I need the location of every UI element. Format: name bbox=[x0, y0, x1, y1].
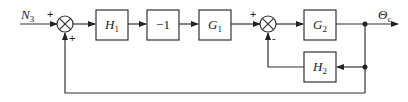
input-label: N3 bbox=[20, 7, 35, 24]
block-g2-label: G2 bbox=[313, 17, 327, 34]
block-diagram: N3 + + + - H1 −1 G1 G2 H2 Θc bbox=[0, 0, 408, 102]
block-h2-label: H2 bbox=[312, 59, 327, 76]
sum-junction-1 bbox=[57, 16, 73, 32]
branch-point-output bbox=[363, 22, 368, 27]
sum2-left-sign: + bbox=[250, 8, 256, 20]
sum1-bottom-sign: + bbox=[69, 32, 75, 44]
block-g1-label: G1 bbox=[208, 17, 222, 34]
sum-junction-2 bbox=[260, 16, 276, 32]
output-label: Θc bbox=[378, 7, 391, 24]
sum1-left-sign: + bbox=[47, 8, 53, 20]
block-h1-label: H1 bbox=[104, 17, 119, 34]
sum2-bottom-sign: - bbox=[272, 32, 276, 44]
block-neg1-label: −1 bbox=[156, 17, 170, 32]
branch-point-h2 bbox=[363, 65, 368, 70]
